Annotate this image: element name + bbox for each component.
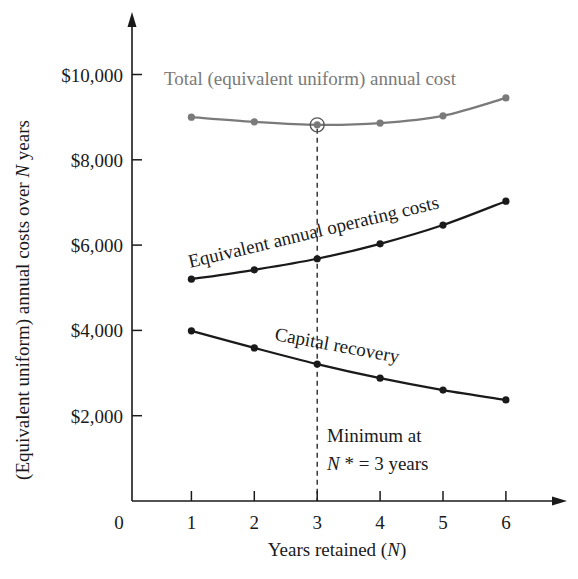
x-tick-label: 2 <box>250 512 260 533</box>
data-point <box>377 240 384 247</box>
x-tick-label: 1 <box>187 512 197 533</box>
data-point <box>251 266 258 273</box>
data-point <box>314 255 321 262</box>
total-cost-label: Total (equivalent uniform) annual cost <box>164 68 457 90</box>
minimum-annotation-line2: N * = 3 years <box>326 453 429 474</box>
series-total-cost <box>188 94 510 128</box>
data-point <box>188 327 195 334</box>
data-point <box>502 94 509 101</box>
data-point <box>502 198 509 205</box>
y-axis-arrow-icon <box>128 12 137 27</box>
x-tick-label: 4 <box>375 512 385 533</box>
data-point <box>439 387 446 394</box>
data-point <box>439 112 446 119</box>
origin-label: 0 <box>114 512 124 533</box>
series-line <box>191 98 506 125</box>
minimum-annotation-line1: Minimum at <box>327 425 422 446</box>
x-tick-label: 5 <box>438 512 448 533</box>
y-axis-title: (Equivalent uniform) annual costs over N… <box>12 120 34 480</box>
min-value-text: * = 3 years <box>340 453 429 474</box>
x-tick-label: 3 <box>312 512 322 533</box>
x-axis-title: Years retained (N) <box>268 539 406 561</box>
data-point <box>377 375 384 382</box>
x-axis-arrow-icon <box>552 497 567 506</box>
y-tick-label: $2,000 <box>71 406 123 427</box>
data-point <box>502 396 509 403</box>
data-point <box>251 344 258 351</box>
y-tick-label: $10,000 <box>61 65 123 86</box>
x-ticks: 123456 <box>187 491 511 533</box>
data-point <box>251 118 258 125</box>
y-tick-label: $8,000 <box>71 150 123 171</box>
data-point <box>188 114 195 121</box>
data-point <box>188 276 195 283</box>
capital-recovery-label: Capital recovery <box>273 323 401 367</box>
data-point <box>314 121 321 128</box>
y-ticks: $2,000$4,000$6,000$8,000$10,000 <box>61 65 142 427</box>
y-tick-label: $4,000 <box>71 320 123 341</box>
x-tick-label: 6 <box>501 512 511 533</box>
data-point <box>377 120 384 127</box>
cost-chart: $2,000$4,000$6,000$8,000$10,000 123456 0… <box>0 0 578 579</box>
y-tick-label: $6,000 <box>71 235 123 256</box>
data-point <box>314 360 321 367</box>
data-point <box>439 221 446 228</box>
